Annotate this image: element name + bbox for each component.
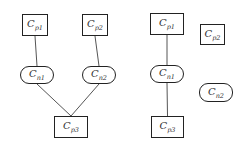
- right-node-cn2: Cn2: [199, 83, 233, 102]
- node-label: C: [27, 18, 35, 29]
- node-subscript: p1: [167, 23, 175, 31]
- node-label: C: [159, 67, 167, 78]
- left-node-cp2: Cp2: [82, 14, 108, 36]
- edge-line: [95, 36, 99, 66]
- node-subscript: p2: [95, 24, 103, 32]
- left-node-cp3: Cp3: [54, 116, 88, 138]
- edge-line: [167, 83, 168, 116]
- right-node-cp3: Cp3: [151, 116, 184, 138]
- node-subscript: p3: [167, 126, 175, 134]
- edge-line: [35, 36, 37, 66]
- node-label: C: [87, 18, 95, 29]
- node-label: C: [63, 120, 71, 131]
- node-subscript: p1: [35, 24, 43, 32]
- node-subscript: n2: [216, 92, 224, 100]
- right-node-cp2: Cp2: [200, 24, 225, 45]
- left-node-cp1: Cp1: [22, 14, 48, 36]
- left-node-cn2: Cn2: [82, 66, 116, 84]
- left-node-cn1: Cn1: [20, 66, 54, 84]
- node-label: C: [208, 86, 216, 97]
- node-label: C: [91, 68, 99, 79]
- edge-line: [37, 84, 71, 116]
- right-node-cp1: Cp1: [150, 13, 184, 35]
- right-node-cn1: Cn1: [150, 65, 184, 83]
- node-subscript: n1: [167, 73, 175, 81]
- node-label: C: [29, 68, 37, 79]
- node-subscript: n2: [99, 74, 107, 82]
- node-subscript: n1: [37, 74, 45, 82]
- edge-line: [71, 84, 99, 116]
- node-label: C: [159, 17, 167, 28]
- node-subscript: p2: [212, 34, 220, 42]
- node-subscript: p3: [71, 126, 79, 134]
- diagram-canvas: Cp1 Cp2 Cn1 Cn2 Cp3 Cp1 Cp2 Cn1 Cn2 Cp3: [0, 0, 248, 147]
